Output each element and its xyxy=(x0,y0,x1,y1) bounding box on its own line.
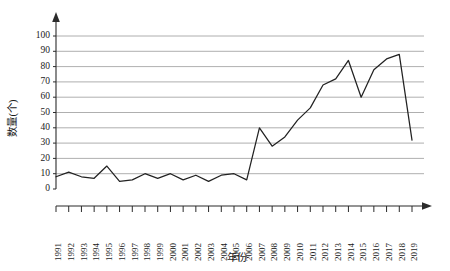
y-axis-tick-label: 20 xyxy=(41,153,51,163)
y-axis-tick-label: 40 xyxy=(41,122,51,132)
y-axis-tick-label: 70 xyxy=(41,76,51,86)
x-axis-title: 年份 xyxy=(227,251,248,263)
y-axis-tick-label: 100 xyxy=(36,30,51,40)
gridlines xyxy=(56,36,424,174)
x-axis-tick-label: 1995 xyxy=(104,243,114,262)
x-axis-tick-label: 2010 xyxy=(295,243,305,262)
x-axis-tick-label: 2011 xyxy=(308,243,318,261)
x-axis-tick-label: 2001 xyxy=(180,243,190,261)
x-axis-tick-label: 2009 xyxy=(282,243,292,262)
y-axis-tick-label: 60 xyxy=(41,91,51,101)
y-axis-tick-label: 80 xyxy=(41,61,51,71)
x-axis-tick-label: 2012 xyxy=(320,243,330,261)
x-axis-tick-label: 2003 xyxy=(206,243,216,262)
y-axis-title: 数量(个) xyxy=(6,99,19,136)
y-axis-tick-label: 0 xyxy=(45,183,50,193)
x-axis-tick-label: 1993 xyxy=(79,243,89,262)
data-series-line xyxy=(56,54,412,181)
chart-canvas: 0102030405060708090100 19911992199319941… xyxy=(0,0,450,271)
x-axis-tick-label: 1992 xyxy=(66,243,76,261)
x-axis-tick-label: 2013 xyxy=(333,243,343,262)
x-axis-tick-label: 2017 xyxy=(384,243,394,262)
x-axis-tick-label: 1991 xyxy=(53,243,63,261)
y-axis-arrow-icon xyxy=(52,12,60,22)
y-axis-tick-label: 90 xyxy=(41,45,51,55)
x-axis-tick-label: 1996 xyxy=(117,243,127,262)
y-axis-tick-label: 50 xyxy=(41,107,51,117)
x-axis-tick-label: 2007 xyxy=(257,243,267,262)
x-axis-tick-label: 2015 xyxy=(358,243,368,262)
x-axis-tick-label: 2016 xyxy=(371,243,381,262)
y-axis-tick-label: 30 xyxy=(41,137,51,147)
y-axis-tick-labels: 0102030405060708090100 xyxy=(36,30,51,193)
x-axis-ticks xyxy=(56,206,412,212)
y-axis-tick-label: 10 xyxy=(41,168,51,178)
x-axis-tick-label: 2014 xyxy=(346,243,356,262)
x-axis-tick-label: 2019 xyxy=(409,243,419,262)
x-axis-tick-label: 2018 xyxy=(397,243,407,262)
x-axis-tick-label: 1998 xyxy=(142,243,152,262)
x-axis-tick-label: 2002 xyxy=(193,243,203,261)
line-chart: 0102030405060708090100 19911992199319941… xyxy=(0,0,450,271)
x-axis-arrow-icon xyxy=(422,202,432,210)
x-axis-tick-label: 1997 xyxy=(130,243,140,262)
x-axis-tick-label: 2008 xyxy=(269,243,279,262)
x-axis-tick-label: 1999 xyxy=(155,243,165,262)
x-axis-tick-label: 1994 xyxy=(91,243,101,262)
x-axis-tick-label: 2000 xyxy=(168,243,178,262)
